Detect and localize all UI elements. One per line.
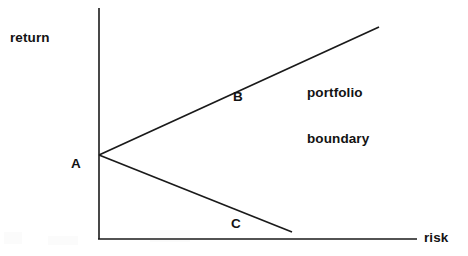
portfolio-boundary-figure: return risk A B C portfolio boundary: [0, 0, 468, 256]
x-axis-label: risk: [424, 230, 448, 245]
point-label-c: C: [231, 216, 241, 231]
portfolio-boundary-annotation: portfolio boundary: [307, 55, 369, 176]
y-axis-label: return: [10, 30, 50, 45]
portfolio-boundary-annotation-line1: portfolio: [307, 85, 369, 100]
lower-branch-line: [99, 155, 292, 232]
point-label-a: A: [71, 156, 81, 171]
point-label-b: B: [233, 89, 243, 104]
portfolio-boundary-annotation-line2: boundary: [307, 131, 369, 146]
